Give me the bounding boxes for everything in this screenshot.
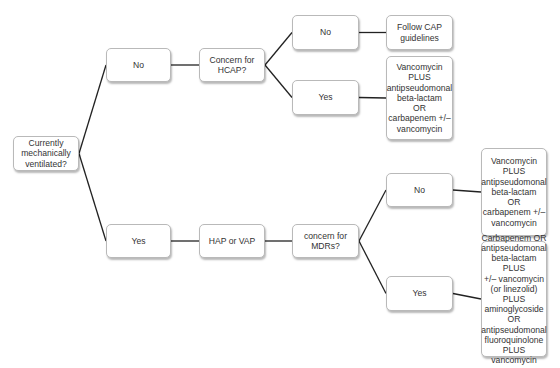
node-concern-mdrs: concern for MDRs? [292, 224, 359, 258]
connector-hcap_yes-to-vanc1 [359, 98, 386, 99]
connector-hcap-to-hcap_no [265, 33, 292, 66]
node-hap-or-vap: HAP or VAP [199, 224, 265, 258]
node-combination-regimen-mdr: Carbapenem OR antipseudomonal beta-lacta… [481, 241, 547, 357]
connector-hcap-to-hcap_yes [265, 65, 292, 98]
node-mdr-yes: Yes [386, 276, 453, 311]
node-hcap-no: No [292, 15, 359, 50]
connector-mdr-to-mdr_no [359, 190, 386, 241]
connector-mdr_no-to-vanc2 [453, 190, 481, 192]
node-hcap-yes: Yes [292, 80, 359, 115]
decision-tree-canvas: Currently mechanically ventilated? No Ye… [0, 0, 560, 368]
connector-mdr_yes-to-combo [453, 294, 481, 300]
node-mdr-no: No [386, 173, 453, 207]
node-ventilated-yes: Yes [106, 224, 171, 258]
connector-root-to-yes1 [79, 154, 106, 242]
connector-root-to-no1 [79, 65, 106, 154]
edges-layer [0, 0, 560, 368]
node-not-ventilated-no: No [106, 48, 171, 82]
connector-mdr-to-mdr_yes [359, 241, 386, 294]
node-concern-hcap: Concern for HCAP? [199, 48, 265, 82]
node-currently-ventilated: Currently mechanically ventilated? [13, 136, 79, 171]
node-vancomycin-regimen-hcap: Vancomycin PLUS antipseudomonal beta-lac… [386, 56, 453, 140]
node-follow-cap-guidelines: Follow CAP guidelines [386, 15, 453, 50]
node-vancomycin-regimen-no-mdr: Vancomycin PLUS antipseudomonal beta-lac… [481, 148, 547, 236]
